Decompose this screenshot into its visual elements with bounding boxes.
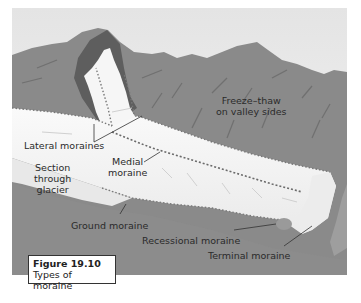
figure-title: Types of moraine: [33, 269, 111, 291]
recessional-moraine-label: Recessional moraine: [142, 235, 240, 246]
freeze-thaw-label: Freeze–thaw on valley sides: [216, 95, 286, 117]
section-line2: through: [34, 173, 71, 184]
recessional-moraine-mound: [276, 218, 292, 230]
medial-moraine-line1: Medial: [108, 156, 147, 167]
section-line1: Section: [34, 162, 71, 173]
ground-moraine-label: Ground moraine: [71, 220, 148, 231]
terminal-moraine-label: Terminal moraine: [208, 250, 290, 261]
moraine-diagram: Freeze–thaw on valley sides Lateral mora…: [12, 8, 347, 275]
section-line3: glacier: [34, 184, 71, 195]
freeze-thaw-line2: on valley sides: [216, 106, 286, 117]
figure-number: Figure 19.10: [33, 258, 111, 269]
figure-caption: Figure 19.10 Types of moraine: [28, 255, 116, 284]
freeze-thaw-line1: Freeze–thaw: [216, 95, 286, 106]
lateral-moraines-label: Lateral moraines: [24, 140, 104, 151]
medial-moraine-label: Medial moraine: [108, 156, 147, 178]
medial-moraine-line2: moraine: [108, 167, 147, 178]
section-through-glacier-label: Section through glacier: [34, 162, 71, 195]
